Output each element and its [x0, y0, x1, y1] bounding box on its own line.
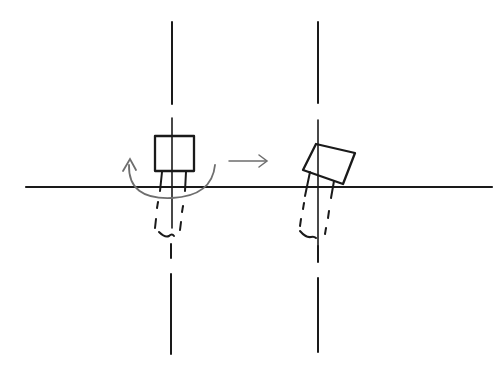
diagram-svg [0, 0, 503, 378]
tilted-block [300, 144, 355, 238]
diagram-canvas [0, 0, 503, 378]
block-head-tilted [303, 144, 355, 184]
rotation-arrow-icon [123, 159, 215, 198]
transition-arrow-icon [229, 155, 267, 167]
block-head [155, 136, 194, 171]
